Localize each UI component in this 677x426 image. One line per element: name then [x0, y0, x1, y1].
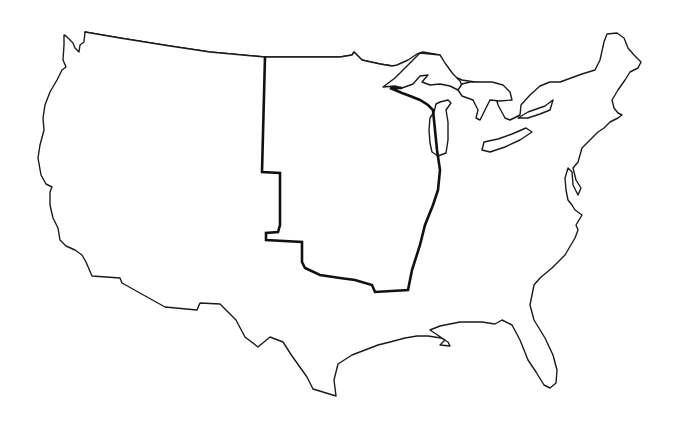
us-outline-map [0, 0, 677, 426]
us-coastline [38, 32, 641, 396]
